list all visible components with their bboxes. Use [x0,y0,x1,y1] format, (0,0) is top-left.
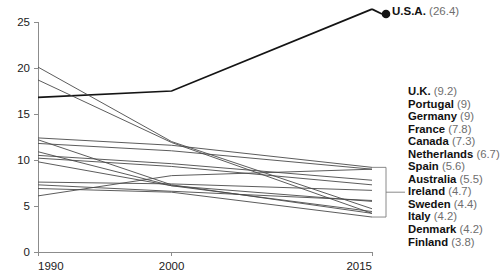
y-tick-label: 20 [17,62,30,74]
legend-item-value: (4.4) [451,198,477,210]
series-line-netherlands [38,182,372,190]
legend-item-value: (5.6) [439,160,465,172]
legend-item-name: Germany [408,110,457,122]
y-tick-label: 15 [17,108,30,120]
legend-item-name: U.K. [408,85,431,97]
legend-bracket [372,167,386,217]
legend-item[interactable]: France (7.8) [408,123,504,136]
legend-item-value: (6.7) [473,148,499,160]
legend-item[interactable]: Netherlands (6.7) [408,148,504,161]
y-tick-label: 10 [17,154,30,166]
usa-leader-line [372,9,382,14]
legend-item-value: (9.2) [431,85,457,97]
legend-item[interactable]: Italy (4.2) [408,210,504,223]
legend-item-value: (3.8) [448,236,474,248]
x-tick-label: 1990 [38,260,64,272]
legend-item[interactable]: Australia (5.5) [408,173,504,186]
legend-item-value: (4.2) [456,223,482,235]
series-line-italy [38,80,372,213]
usa-callout-value: (26.4) [429,5,459,17]
series-line-spain [38,185,372,201]
y-tick-label: 25 [17,16,30,28]
series-line-france [38,155,372,180]
legend-item-name: Ireland [408,185,445,197]
legend-item-name: Sweden [408,198,451,210]
legend-item[interactable]: Sweden (4.4) [408,198,504,211]
legend-item[interactable]: Ireland (4.7) [408,185,504,198]
legend: U.K. (9.2)Portugal (9)Germany (9)France … [408,85,504,248]
legend-item[interactable]: Germany (9) [408,110,504,123]
x-tick-label: 2000 [159,260,185,272]
legend-item-name: France [408,123,445,135]
legend-item[interactable]: U.K. (9.2) [408,85,504,98]
y-tick-label: 0 [24,246,30,258]
legend-item-name: Portugal [408,98,454,110]
legend-item-name: Canada [408,135,449,147]
x-tick-label: 2015 [346,260,372,272]
legend-item-name: Spain [408,160,439,172]
series-line-denmark [38,140,372,214]
legend-item-value: (4.2) [431,210,457,222]
chart-root: 0510152025199020002015 U.S.A. (26.4) U.K… [0,0,504,277]
legend-item-name: Denmark [408,223,456,235]
legend-item-name: Italy [408,210,431,222]
legend-item-value: (9) [457,110,474,122]
legend-item[interactable]: Denmark (4.2) [408,223,504,236]
series-layer [38,9,372,217]
legend-item[interactable]: Spain (5.6) [408,160,504,173]
series-line-sweden [38,152,372,212]
legend-item-name: Australia [408,173,456,185]
legend-item[interactable]: Canada (7.3) [408,135,504,148]
legend-item-value: (7.3) [449,135,475,147]
annotation-layer [372,9,405,217]
axes-layer: 0510152025199020002015 [17,16,372,272]
legend-item-value: (5.5) [456,173,482,185]
series-line-u-s-a [38,9,372,97]
legend-item-name: Netherlands [408,148,473,160]
usa-end-marker [382,10,391,19]
y-tick-label: 5 [24,200,30,212]
legend-item-value: (7.8) [445,123,471,135]
legend-item[interactable]: Finland (3.8) [408,236,504,249]
usa-callout: U.S.A. (26.4) [392,5,459,18]
legend-item-value: (4.7) [445,185,471,197]
usa-callout-name: U.S.A. [392,5,426,17]
legend-item-name: Finland [408,236,448,248]
legend-item-value: (9) [454,98,471,110]
legend-item[interactable]: Portugal (9) [408,98,504,111]
